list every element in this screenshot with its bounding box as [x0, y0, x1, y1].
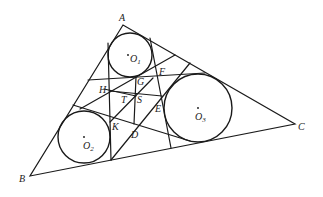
geometry-diagram: A B C O1 O2 O3 F G H T S E K D	[0, 0, 323, 197]
label-a: A	[118, 12, 126, 23]
line-diag-1	[80, 55, 175, 109]
label-c: C	[298, 121, 305, 132]
center-dot-o2	[83, 136, 85, 138]
label-o3: O3	[195, 111, 206, 124]
label-o1: O1	[130, 53, 141, 66]
diagram-canvas: A B C O1 O2 O3 F G H T S E K D	[0, 0, 323, 197]
label-o2: O2	[83, 140, 94, 153]
label-b: B	[19, 173, 25, 184]
label-g: G	[137, 76, 144, 87]
center-dot-o1	[127, 54, 129, 56]
label-s: S	[137, 94, 142, 105]
label-f: F	[158, 66, 166, 77]
label-t: T	[121, 94, 128, 105]
label-h: H	[98, 84, 107, 95]
label-k: K	[111, 121, 120, 132]
label-d: D	[130, 129, 139, 140]
center-dot-o3	[197, 107, 199, 109]
line-vertical-mid	[134, 77, 136, 124]
label-e: E	[154, 103, 161, 114]
line-top-horizontal	[88, 73, 205, 80]
